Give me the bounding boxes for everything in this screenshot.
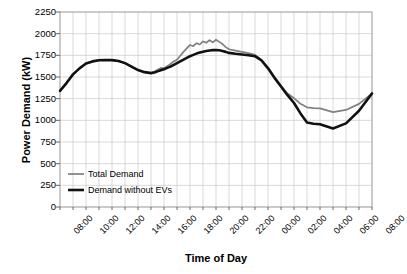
x-tick-label: 08:00 — [384, 213, 407, 236]
legend — [68, 174, 84, 190]
legend-label-demand-without-evs: Demand without EVs — [88, 185, 172, 195]
legend-label-total-demand: Total Demand — [88, 169, 144, 179]
